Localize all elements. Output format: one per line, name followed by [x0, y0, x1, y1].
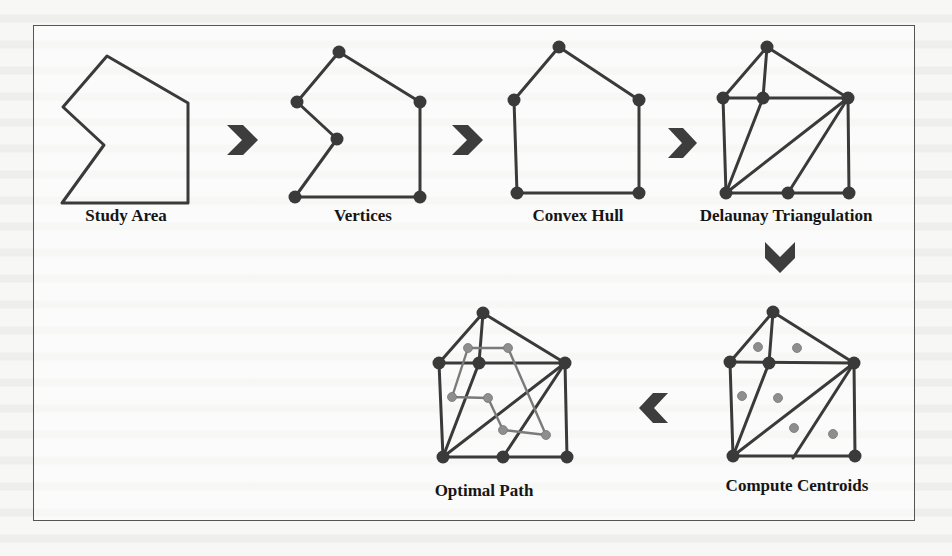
chevron-right-icon: [452, 125, 483, 155]
chevron-down-icon: [765, 242, 795, 273]
study-area-polygon: [62, 56, 188, 203]
label-compute-centroids: Compute Centroids: [726, 476, 869, 496]
chevron-left-icon: [639, 393, 668, 423]
convex-hull-polygon: [508, 41, 646, 200]
chevron-right-icon: [668, 128, 697, 158]
centroids-mesh: [724, 306, 862, 463]
chevron-right-icon: [227, 125, 258, 155]
label-optimal-path: Optimal Path: [435, 481, 534, 501]
workflow-diagram: .edge { stroke: #3a3a3a; stroke-width: 3…: [0, 0, 952, 556]
delaunay-triangulation-mesh: [717, 41, 856, 200]
label-vertices: Vertices: [334, 206, 392, 226]
vertices-polygon: [289, 46, 427, 204]
label-convex-hull: Convex Hull: [532, 206, 623, 226]
optimal-path-mesh: [433, 307, 574, 464]
label-delaunay-triangulation: Delaunay Triangulation: [700, 206, 873, 226]
label-study-area: Study Area: [85, 206, 166, 226]
